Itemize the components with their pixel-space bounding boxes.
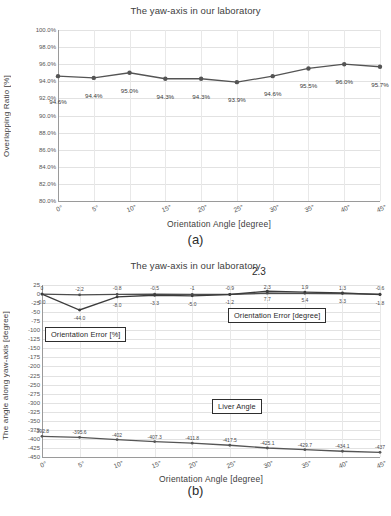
- y-axis-tick-label: 86.0%: [39, 147, 56, 153]
- x-axis-tick-label: 0°: [39, 460, 47, 469]
- series-marker: [270, 74, 274, 78]
- x-axis-tick-label: 0°: [55, 204, 63, 213]
- y-axis-tick-label: 94.0%: [39, 78, 56, 84]
- x-axis-tick-label: 30°: [263, 459, 275, 469]
- y-axis-tick-label: 88.0%: [39, 130, 56, 136]
- y-axis-tick-label: 80.0%: [39, 198, 56, 204]
- series-marker: [127, 71, 131, 75]
- x-axis-line: [42, 457, 380, 458]
- y-axis-tick-label: 82.0%: [39, 181, 56, 187]
- series-marker: [116, 296, 119, 299]
- y-axis-tick-label: 96.0%: [39, 61, 56, 67]
- y-axis-tick-label: 90.0%: [39, 113, 56, 119]
- series-marker: [191, 294, 194, 297]
- legend-orientation-error-percent: Orientation Error [%]: [45, 327, 126, 342]
- x-axis-tick-label: 35°: [300, 459, 312, 469]
- x-axis-tick-label: 25°: [225, 459, 237, 469]
- series-marker: [78, 436, 81, 439]
- series-marker: [228, 444, 231, 447]
- gridline-vertical: [380, 285, 381, 457]
- y-axis-tick-label: -150: [28, 345, 40, 351]
- chart-a-xlabel: Orientation Angle [degree]: [58, 219, 380, 229]
- chart-b-xtick-group: 0°5°10°15°20°25°30°35°40°45°: [42, 461, 380, 475]
- x-axis-tick-label: 45°: [375, 203, 387, 213]
- y-axis-tick-label: 84.0%: [39, 164, 56, 170]
- chart-b-axes: 0-2.2-0.8-0.5-1-0.92.31.91.3-0.60.0-44.0…: [42, 285, 380, 457]
- y-axis-tick-label: 98.0%: [39, 44, 56, 50]
- x-axis-line: [58, 201, 380, 202]
- series-marker: [199, 77, 203, 81]
- y-axis-tick-label: -75: [31, 318, 40, 324]
- figure-a: The yaw-axis in our laboratory Overlappi…: [0, 0, 391, 255]
- chart-a-axes: 94.6%94.4%95.0%94.3%94.3%93.9%94.6%95.5%…: [58, 30, 380, 201]
- series-marker: [379, 451, 382, 454]
- y-axis-tick-label: -300: [28, 400, 40, 406]
- series-marker: [41, 435, 44, 438]
- series-marker: [56, 74, 60, 78]
- x-axis-tick-label: 10°: [113, 459, 125, 469]
- y-axis-tick-label: -200: [28, 363, 40, 369]
- series-marker: [92, 76, 96, 80]
- series-marker: [266, 447, 269, 450]
- series-marker: [266, 290, 269, 293]
- x-axis-tick-label: 35°: [304, 203, 316, 213]
- chart-a-plot-wrap: Overlapping Ratio [%] 100.0%98.0%96.0%94…: [0, 16, 391, 231]
- series-marker: [116, 438, 119, 441]
- series-marker: [341, 291, 344, 294]
- figure-b-caption: (b): [0, 483, 391, 498]
- legend-orientation-error-degree: Orientation Error [degree]: [228, 308, 326, 323]
- chart-b-ylabel: The angle along yaw-axis [degree]: [1, 293, 10, 458]
- chart-a-xtick-group: 0°5°10°15°20°25°30°35°40°45°: [58, 205, 380, 219]
- y-axis-tick-label: -175: [28, 354, 40, 360]
- series-marker: [379, 293, 382, 296]
- chart-b-plot-wrap: The angle along yaw-axis [degree] 250-25…: [0, 271, 391, 491]
- series-layer: [42, 285, 380, 457]
- legend-liver-angle: Liver Angle: [212, 399, 262, 414]
- series-marker: [153, 440, 156, 443]
- x-axis-tick-label: 30°: [268, 203, 280, 213]
- series-marker: [78, 293, 81, 296]
- y-axis-tick-label: -400: [28, 436, 40, 442]
- y-axis-tick-label: -250: [28, 382, 40, 388]
- series-marker: [303, 448, 306, 451]
- series-marker: [303, 291, 306, 294]
- y-axis-tick-label: -450: [28, 454, 40, 460]
- series-marker: [235, 80, 239, 84]
- figure-b: The yaw-axis in our laboratory The angle…: [0, 255, 391, 516]
- chart-a-ytick-group: 100.0%98.0%96.0%94.0%92.0%90.0%88.0%86.0…: [20, 16, 56, 201]
- series-marker: [228, 293, 231, 296]
- series-layer: [58, 30, 380, 201]
- series-marker: [342, 62, 346, 66]
- series-line: [42, 436, 380, 452]
- y-axis-tick-label: -125: [28, 336, 40, 342]
- series-marker: [78, 309, 81, 312]
- series-marker: [163, 77, 167, 81]
- y-axis-tick-label: -275: [28, 391, 40, 397]
- series-line: [58, 64, 380, 82]
- gridline-vertical: [380, 30, 381, 201]
- chart-a-title: The yaw-axis in our laboratory: [0, 0, 391, 16]
- series-marker: [306, 66, 310, 70]
- series-marker: [153, 294, 156, 297]
- x-axis-tick-label: 15°: [161, 203, 173, 213]
- x-axis-tick-label: 25°: [232, 203, 244, 213]
- y-axis-tick-label: -50: [31, 309, 40, 315]
- y-axis-tick-label: 100.0%: [36, 27, 56, 33]
- y-axis-tick-label: 0: [37, 291, 40, 297]
- y-axis-tick-label: -225: [28, 373, 40, 379]
- chart-b-annotation-peak: 2.3: [252, 266, 266, 277]
- x-axis-tick-label: 5°: [77, 460, 85, 469]
- chart-b-title: The yaw-axis in our laboratory: [0, 255, 391, 271]
- x-axis-tick-label: 20°: [188, 459, 200, 469]
- series-marker: [341, 450, 344, 453]
- series-marker: [116, 293, 119, 296]
- x-axis-tick-label: 20°: [197, 203, 209, 213]
- y-axis-tick-label: -325: [28, 409, 40, 415]
- y-axis-tick-label: 25: [33, 282, 40, 288]
- y-axis-tick-label: -100: [28, 327, 40, 333]
- x-axis-tick-label: 10°: [125, 203, 137, 213]
- x-axis-tick-label: 40°: [338, 459, 350, 469]
- x-axis-tick-label: 15°: [150, 459, 162, 469]
- x-axis-tick-label: 40°: [340, 203, 352, 213]
- figure-a-caption: (a): [0, 232, 391, 247]
